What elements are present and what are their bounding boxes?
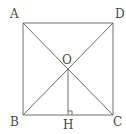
label-a: A bbox=[9, 7, 19, 21]
square-diagram: A D B C O H bbox=[0, 0, 126, 134]
label-h: H bbox=[63, 118, 73, 132]
label-d: D bbox=[115, 7, 125, 21]
label-b: B bbox=[10, 115, 19, 129]
right-angle-marker bbox=[68, 111, 72, 115]
label-o: O bbox=[62, 53, 72, 67]
label-c: C bbox=[113, 115, 122, 129]
